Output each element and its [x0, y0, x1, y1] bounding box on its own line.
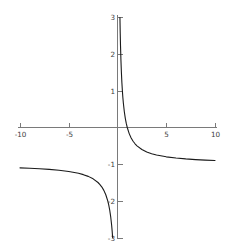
y-tick-label-3: 3 [110, 13, 115, 22]
x-tick-label-10: 10 [211, 130, 221, 139]
y-tick-label-minus-3: -3 [108, 234, 115, 243]
chart-figure: -10 -5 5 10 3 2 1 -1 -2 -3 [0, 0, 243, 246]
curve-branch-right [120, 18, 215, 161]
axes-group [18, 15, 217, 239]
plot-canvas: -10 -5 5 10 3 2 1 -1 -2 -3 [0, 0, 243, 246]
y-tick-label-2: 2 [110, 50, 115, 59]
x-tick-label-minus-10: -10 [15, 130, 27, 139]
x-tick-label-5: 5 [164, 130, 169, 139]
y-tick-label-minus-1: -1 [108, 160, 115, 169]
y-tick-label-1: 1 [110, 87, 115, 96]
x-tick-label-minus-5: -5 [66, 130, 73, 139]
curve-branch-left [20, 168, 113, 238]
